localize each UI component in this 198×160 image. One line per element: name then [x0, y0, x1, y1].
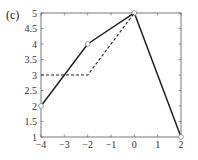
line-chart: (c) 11.522.533.544.55 −4−3−2−1012 [0, 0, 198, 160]
x-tick-label: 1 [155, 139, 160, 150]
data-series [39, 11, 184, 140]
data-point-marker [85, 42, 90, 47]
x-tick-label: 2 [179, 139, 184, 150]
x-tick-label: −1 [106, 139, 117, 150]
y-tick-label: 4.5 [25, 23, 38, 34]
data-point-marker [39, 104, 44, 109]
x-tick-label: −2 [82, 139, 93, 150]
panel-label: (c) [6, 8, 19, 22]
y-tick-label: 3 [32, 70, 37, 81]
x-tick-label: 0 [132, 139, 137, 150]
y-tick-label: 2 [32, 101, 37, 112]
x-tick-label: −3 [59, 139, 70, 150]
y-tick-label: 1.5 [25, 116, 38, 127]
x-tick-label: −4 [36, 139, 47, 150]
y-tick-label: 3.5 [25, 54, 38, 65]
data-point-marker [179, 135, 184, 140]
y-tick-label: 4 [32, 39, 37, 50]
y-tick-label: 2.5 [25, 85, 38, 96]
y-tick-label: 5 [32, 8, 37, 19]
x-axis-ticks: −4−3−2−1012 [36, 13, 184, 150]
